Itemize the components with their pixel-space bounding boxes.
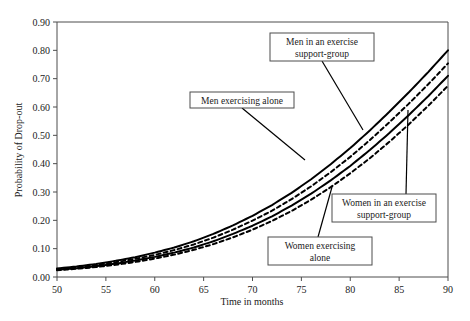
callout-men-support-group: Men in an exercisesupport-group [270,33,374,130]
probability-dropout-line-chart: 0.000.100.200.300.400.500.600.700.800.90… [0,0,470,321]
y-tick-label: 0.00 [33,272,51,283]
y-tick-label: 0.30 [33,187,51,198]
y-tick-label: 0.60 [33,102,51,113]
callout-label-line1: Women in an exercise [342,198,426,208]
y-tick-label: 0.40 [33,158,51,169]
data-curves [57,50,448,270]
y-tick-label: 0.10 [33,243,51,254]
chart-figure: 0.000.100.200.300.400.500.600.700.800.90… [0,0,470,321]
callout-leader-line [406,110,408,194]
x-tick-label: 55 [101,284,111,295]
x-tick-label: 70 [248,284,258,295]
y-tick-label: 0.70 [33,73,51,84]
x-tick-label: 75 [296,284,306,295]
y-tick-label: 0.90 [33,17,51,28]
x-tick-label: 65 [199,284,209,295]
callout-label-line2: support-group [357,210,411,220]
callout-leader-line [242,108,305,160]
x-tick-label: 85 [394,284,404,295]
x-tick-label: 50 [52,284,62,295]
x-tick-label: 60 [150,284,160,295]
x-tick-label: 80 [345,284,355,295]
callout-leader-line [322,61,363,130]
x-axis-ticks: 505560657075808590 [52,277,453,295]
series-callouts: Men in an exercisesupport-groupMen exerc… [190,33,436,265]
curve-men-in-an-exercise-support-group [57,50,448,268]
callout-label-line1: Women exercising [285,241,356,251]
curve-women-exercising-alone [57,86,448,270]
y-tick-label: 0.80 [33,45,51,56]
callout-label-line1: Men exercising alone [201,96,283,106]
y-axis-title: Probability of Drop-out [13,103,24,198]
plot-frame [57,22,448,277]
callout-men-alone: Men exercising alone [190,92,305,160]
callout-label-line1: Men in an exercise [286,37,358,47]
x-axis-title: Time in months [221,296,284,307]
y-tick-label: 0.50 [33,130,51,141]
callout-label-line2: alone [310,253,331,263]
callout-label-line2: support-group [295,49,349,59]
y-axis-ticks: 0.000.100.200.300.400.500.600.700.800.90 [33,17,58,283]
y-tick-label: 0.20 [33,215,51,226]
x-tick-label: 90 [443,284,453,295]
